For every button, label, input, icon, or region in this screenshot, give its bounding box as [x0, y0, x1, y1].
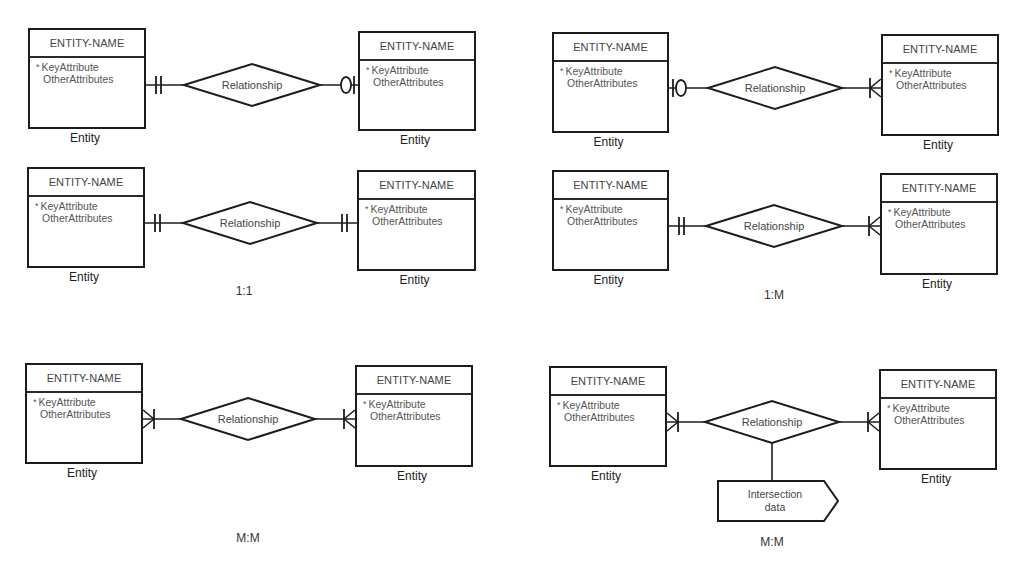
key-attribute-text: KeyAttribute: [41, 200, 98, 212]
entity-caption: Entity: [922, 277, 952, 291]
entity-name: ENTITY-NAME: [29, 169, 143, 197]
entity-box-right[interactable]: ENTITY-NAME *KeyAttribute OtherAttribute…: [880, 173, 998, 275]
other-attributes-text: OtherAttributes: [564, 411, 635, 423]
entity-name-text: ENTITY-NAME: [49, 176, 124, 188]
key-attribute-text: KeyAttribute: [369, 398, 426, 410]
key-attribute: *KeyAttribute: [35, 200, 143, 212]
entity-name-text: ENTITY-NAME: [47, 372, 122, 384]
entity-box-left[interactable]: ENTITY-NAME *KeyAttribute OtherAttribute…: [28, 28, 146, 129]
crows-foot-icon: [344, 410, 355, 419]
key-attribute: *KeyAttribute: [33, 396, 141, 408]
entity-attributes: *KeyAttribute OtherAttributes: [360, 61, 474, 88]
entity-name: ENTITY-NAME: [554, 34, 667, 62]
other-attributes: OtherAttributes: [887, 414, 995, 426]
cardinality-label: 1:1: [236, 284, 253, 298]
crows-foot-icon: [143, 410, 154, 419]
entity-name-text: ENTITY-NAME: [902, 182, 977, 194]
entity-attributes: *KeyAttribute OtherAttributes: [883, 64, 997, 91]
entity-attributes: *KeyAttribute OtherAttributes: [881, 399, 995, 426]
crows-foot-icon: [143, 419, 154, 428]
key-marker: *: [33, 397, 37, 407]
entity-caption: Entity: [591, 469, 621, 483]
key-attribute-text: KeyAttribute: [42, 61, 99, 73]
other-attributes: OtherAttributes: [363, 410, 471, 422]
key-marker: *: [36, 62, 40, 72]
other-attributes-text: OtherAttributes: [895, 218, 966, 230]
other-attributes: OtherAttributes: [36, 73, 144, 85]
entity-attributes: *KeyAttribute OtherAttributes: [359, 200, 474, 227]
entity-name: ENTITY-NAME: [357, 367, 471, 395]
other-attributes: OtherAttributes: [557, 411, 665, 423]
key-marker: *: [560, 204, 564, 214]
key-attribute-text: KeyAttribute: [893, 402, 950, 414]
entity-attributes: *KeyAttribute OtherAttributes: [357, 395, 471, 422]
key-attribute: *KeyAttribute: [889, 67, 997, 79]
other-attributes-text: OtherAttributes: [896, 79, 967, 91]
crows-foot-icon: [869, 226, 880, 235]
entity-name: ENTITY-NAME: [882, 175, 996, 203]
entity-box-left[interactable]: ENTITY-NAME *KeyAttribute OtherAttribute…: [552, 32, 669, 133]
entity-caption: Entity: [400, 133, 430, 147]
intersection-line-2: data: [748, 501, 802, 514]
entity-name-text: ENTITY-NAME: [903, 43, 978, 55]
key-marker: *: [887, 403, 891, 413]
entity-name-text: ENTITY-NAME: [573, 41, 648, 53]
entity-box-right[interactable]: ENTITY-NAME *KeyAttribute OtherAttribute…: [355, 365, 473, 467]
key-marker: *: [888, 207, 892, 217]
key-attribute: *KeyAttribute: [36, 61, 144, 73]
entity-name: ENTITY-NAME: [30, 30, 144, 58]
entity-caption: Entity: [67, 466, 97, 480]
entity-box-right[interactable]: ENTITY-NAME *KeyAttribute OtherAttribute…: [358, 31, 476, 131]
key-attribute: *KeyAttribute: [363, 398, 471, 410]
entity-box-left[interactable]: ENTITY-NAME *KeyAttribute OtherAttribute…: [549, 366, 667, 467]
entity-name-text: ENTITY-NAME: [379, 179, 454, 191]
entity-caption: Entity: [593, 135, 623, 149]
relationship-label: Relationship: [745, 82, 806, 94]
other-attributes-text: OtherAttributes: [894, 414, 965, 426]
entity-attributes: *KeyAttribute OtherAttributes: [554, 62, 667, 89]
entity-attributes: *KeyAttribute OtherAttributes: [554, 200, 667, 227]
relationship-label: Relationship: [742, 416, 803, 428]
crows-foot-icon: [868, 422, 879, 431]
other-attributes: OtherAttributes: [560, 215, 667, 227]
other-attributes: OtherAttributes: [365, 215, 474, 227]
key-attribute: *KeyAttribute: [560, 203, 667, 215]
entity-box-left[interactable]: ENTITY-NAME *KeyAttribute OtherAttribute…: [25, 363, 143, 464]
other-attributes-text: OtherAttributes: [567, 215, 638, 227]
entity-name: ENTITY-NAME: [551, 368, 665, 396]
entity-box-right[interactable]: ENTITY-NAME *KeyAttribute OtherAttribute…: [879, 369, 997, 470]
entity-name: ENTITY-NAME: [881, 371, 995, 399]
other-attributes: OtherAttributes: [35, 212, 143, 224]
entity-name: ENTITY-NAME: [360, 33, 474, 61]
entity-caption: Entity: [70, 131, 100, 145]
entity-box-right[interactable]: ENTITY-NAME *KeyAttribute OtherAttribute…: [357, 170, 476, 271]
key-marker: *: [889, 68, 893, 78]
crows-foot-icon: [868, 413, 879, 422]
key-attribute-text: KeyAttribute: [894, 206, 951, 218]
other-attributes-text: OtherAttributes: [373, 76, 444, 88]
intersection-line-1: Intersection: [748, 488, 802, 501]
entity-box-right[interactable]: ENTITY-NAME *KeyAttribute OtherAttribute…: [881, 34, 999, 136]
entity-box-left[interactable]: ENTITY-NAME *KeyAttribute OtherAttribute…: [27, 167, 145, 268]
key-attribute: *KeyAttribute: [560, 65, 667, 77]
other-attributes: OtherAttributes: [889, 79, 997, 91]
entity-box-left[interactable]: ENTITY-NAME *KeyAttribute OtherAttribute…: [552, 170, 669, 271]
other-attributes: OtherAttributes: [366, 76, 474, 88]
key-attribute-text: KeyAttribute: [372, 64, 429, 76]
relationship-label: Relationship: [220, 217, 281, 229]
entity-name-text: ENTITY-NAME: [380, 40, 455, 52]
entity-attributes: *KeyAttribute OtherAttributes: [882, 203, 996, 230]
entity-name-text: ENTITY-NAME: [50, 37, 125, 49]
crows-foot-icon: [870, 88, 881, 97]
entity-attributes: *KeyAttribute OtherAttributes: [27, 393, 141, 420]
other-attributes-text: OtherAttributes: [40, 408, 111, 420]
other-attributes-text: OtherAttributes: [42, 212, 113, 224]
other-attributes: OtherAttributes: [888, 218, 996, 230]
entity-attributes: *KeyAttribute OtherAttributes: [30, 58, 144, 85]
cardinality-label: 1:M: [764, 288, 784, 302]
entity-caption: Entity: [593, 273, 623, 287]
relationship-label: Relationship: [222, 79, 283, 91]
crows-foot-icon: [667, 413, 678, 422]
intersection-data-label: Intersectiondata: [748, 488, 802, 514]
key-attribute: *KeyAttribute: [366, 64, 474, 76]
